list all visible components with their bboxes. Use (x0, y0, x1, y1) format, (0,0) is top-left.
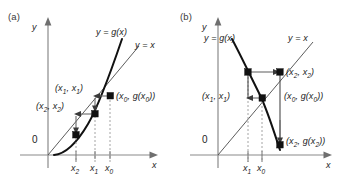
y-axis (45, 17, 52, 168)
panel-a-x-axis-label: x (152, 160, 157, 170)
panel-b-tick-label-x1: x1 (243, 163, 251, 175)
identity-label-text-a: y = x (135, 40, 155, 50)
g-curve-b (232, 39, 280, 150)
panel-a-point-x2-label: (x2, x2) (36, 101, 64, 113)
panel-b-y-axis-label: y (202, 22, 207, 32)
panel-a-tick-label-x0: x0 (105, 163, 113, 175)
panel-a-tag: (a) (8, 11, 20, 22)
panel-a-tick-label-x2: x2 (71, 163, 79, 175)
panel-a-tick-label-x1: x1 (90, 163, 98, 175)
panel-a-origin-label: 0 (32, 134, 38, 145)
dot-x0 (107, 93, 114, 100)
panel-b-point-x1-label: (x1, x1) (202, 91, 230, 103)
dot-x1-g-b (245, 69, 252, 76)
dot-x2-b (277, 69, 284, 76)
panel-b-point-x2-label: (x2, x2) (286, 67, 314, 79)
dot-x2 (73, 132, 80, 139)
panel-a-y-axis-label: y (32, 22, 37, 32)
identity-label-text-b: y = x (288, 33, 308, 43)
panel-a-point-x0-label: (x0, g(x0)) (116, 91, 155, 103)
panel-b-g-curve-label: y = g(x) (204, 33, 235, 43)
panel-b-x-axis-label: x (326, 160, 331, 170)
g-curve-label-text-a: y = g(x) (96, 27, 127, 37)
panel-b: (b) y x 0 y = g(x) y = x (x2, x2) (x1, x… (176, 0, 353, 186)
x-axis-b (190, 152, 332, 159)
dot-x2-gx2-b (277, 142, 284, 149)
cobweb-step-down-b (277, 120, 283, 144)
panel-b-point-x0-label: (x0, g(x0)) (284, 91, 323, 103)
dot-x0-b (259, 95, 266, 102)
panel-a-point-x1-label: (x1, x1) (55, 83, 83, 95)
panel-b-tick-label-x0: x0 (257, 163, 265, 175)
panel-b-identity-label: y = x (288, 33, 308, 43)
g-curve-label-text-b: y = g(x) (204, 33, 235, 43)
dot-x1 (92, 111, 99, 118)
panel-b-origin-label: 0 (202, 134, 208, 145)
panel-b-point-x2-gx2-label: (x2, g(x2)) (286, 136, 325, 148)
x-axis (20, 152, 158, 159)
panel-a-g-curve-label: y = g(x) (96, 27, 127, 37)
figure-canvas: (a) y x 0 y = g(x) y = x (x1, x1) (x2, x… (0, 0, 353, 186)
panel-a: (a) y x 0 y = g(x) y = x (x1, x1) (x2, x… (0, 0, 176, 186)
panel-a-identity-label: y = x (135, 40, 155, 50)
panel-b-tag: (b) (180, 11, 192, 22)
cobweb-step-top-b (250, 69, 280, 75)
